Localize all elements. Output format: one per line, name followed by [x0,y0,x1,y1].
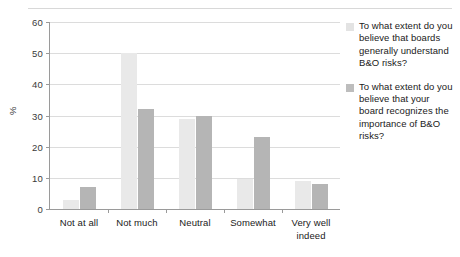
bar-chart-figure: % 0102030405060 Not at allNot muchNeutra… [0,0,460,257]
bar [121,53,137,209]
bar [237,179,253,209]
chart-legend: To what extent do you believe that board… [346,20,456,154]
bar [196,116,212,210]
bar-group [282,22,340,209]
y-axis-tick-mark [46,209,50,210]
legend-item-label: To what extent do you believe that your … [359,81,456,143]
x-axis-category-label: Very well indeed [276,217,346,242]
x-axis-tick-mark [282,209,283,213]
bar [138,109,154,209]
y-axis-tick-label: 60 [32,17,43,28]
y-axis-tick-label: 50 [32,48,43,59]
bar [312,184,328,209]
legend-swatch-icon [346,84,354,92]
x-axis-tick-mark [166,209,167,213]
plot-area: 0102030405060 Not at allNot muchNeutralS… [50,22,340,209]
legend-swatch-icon [346,23,354,31]
y-axis-title: % [7,107,18,115]
y-axis-tick-label: 10 [32,172,43,183]
bar [63,200,79,209]
y-axis-tick-label: 20 [32,141,43,152]
y-axis-tick-label: 0 [38,204,43,215]
x-axis-tick-mark [108,209,109,213]
legend-item: To what extent do you believe that board… [346,20,456,70]
bar [295,181,311,209]
legend-item: To what extent do you believe that your … [346,81,456,143]
bar [254,137,270,209]
bars-group [50,22,340,209]
bar-group [224,22,282,209]
y-axis-tick-label: 30 [32,110,43,121]
y-axis-tick-label: 40 [32,79,43,90]
x-axis-tick-mark [224,209,225,213]
x-axis-line [49,209,340,210]
legend-item-label: To what extent do you believe that board… [359,20,456,70]
bar [80,187,96,209]
bar-group [108,22,166,209]
bar-group [166,22,224,209]
bar [179,119,195,209]
bar-group [50,22,108,209]
